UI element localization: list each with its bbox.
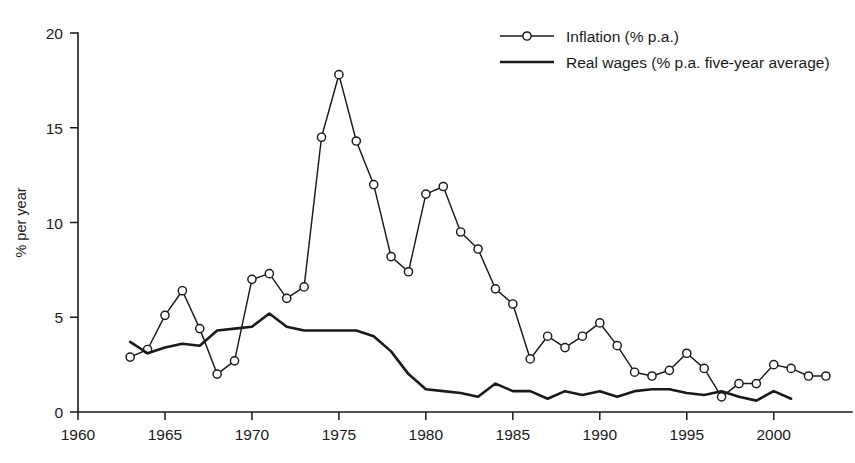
legend-label: Inflation (% p.a.)	[566, 28, 679, 45]
x-tick-label-1965: 1965	[148, 426, 182, 443]
data-point-1969	[230, 357, 238, 365]
x-tick-label-1990: 1990	[583, 426, 618, 443]
data-point-1989	[578, 332, 586, 340]
data-point-1977	[370, 181, 378, 189]
data-point-1999	[752, 379, 760, 387]
x-tick-label-1960: 1960	[61, 426, 96, 443]
data-point-1975	[335, 71, 343, 79]
line-chart-canvas: 196019651970197519801985199019952000 051…	[0, 0, 855, 463]
y-axis-title-text: % per year	[13, 187, 29, 257]
data-point-1976	[352, 137, 360, 145]
x-tick-label-2000: 2000	[756, 426, 791, 443]
data-point-1990	[596, 319, 604, 327]
data-point-1968	[213, 370, 221, 378]
x-tick-label-1975: 1975	[322, 426, 356, 443]
data-point-1974	[317, 133, 325, 141]
data-point-1985	[509, 300, 517, 308]
data-point-1992	[630, 368, 638, 376]
legend-label: Real wages (% p.a. five-year average)	[566, 54, 830, 71]
data-point-1978	[387, 253, 395, 261]
data-point-1983	[474, 245, 482, 253]
x-tick-label-1970: 1970	[235, 426, 270, 443]
data-point-1984	[491, 285, 499, 293]
axis-lines	[78, 33, 852, 412]
tick-marks	[70, 33, 774, 420]
data-point-1995	[683, 349, 691, 357]
y-axis-title: % per year	[13, 187, 29, 257]
data-point-2000	[770, 361, 778, 369]
data-series	[126, 71, 830, 401]
data-point-1996	[700, 364, 708, 372]
data-point-1998	[735, 379, 743, 387]
y-tick-label-20: 20	[46, 25, 64, 42]
data-point-1988	[561, 343, 569, 351]
legend-item-inflation: Inflation (% p.a.)	[500, 28, 679, 45]
data-point-1980	[422, 190, 430, 198]
data-point-2003	[822, 372, 830, 380]
series-inflation	[126, 71, 830, 401]
data-point-1963	[126, 353, 134, 361]
series-path	[130, 75, 826, 397]
chart-figure: 196019651970197519801985199019952000 051…	[0, 0, 855, 463]
x-tick-label-1995: 1995	[670, 426, 704, 443]
data-point-1987	[544, 332, 552, 340]
chart-legend: Inflation (% p.a.)Real wages (% p.a. fiv…	[500, 28, 830, 71]
y-tick-label-0: 0	[54, 404, 63, 421]
data-point-1970	[248, 275, 256, 283]
data-point-1965	[161, 311, 169, 319]
data-point-1972	[283, 294, 291, 302]
data-point-1993	[648, 372, 656, 380]
data-point-1981	[439, 182, 447, 190]
data-point-1966	[178, 287, 186, 295]
data-point-1982	[457, 228, 465, 236]
data-point-1997	[717, 393, 725, 401]
data-point-1971	[265, 270, 273, 278]
data-point-1994	[665, 366, 673, 374]
legend-item-real-wages: Real wages (% p.a. five-year average)	[500, 54, 830, 71]
legend-marker-sample	[523, 32, 531, 40]
data-point-2001	[787, 364, 795, 372]
y-tick-label-10: 10	[46, 215, 64, 232]
axes	[78, 33, 852, 412]
data-point-1973	[300, 283, 308, 291]
data-point-1967	[196, 325, 204, 333]
data-point-1991	[613, 342, 621, 350]
x-tick-label-1985: 1985	[496, 426, 530, 443]
x-axis-tick-labels: 196019651970197519801985199019952000	[61, 426, 792, 443]
data-point-1986	[526, 355, 534, 363]
y-tick-label-5: 5	[54, 309, 63, 326]
data-point-2002	[804, 372, 812, 380]
y-tick-label-15: 15	[46, 120, 63, 137]
y-axis-tick-labels: 05101520	[46, 25, 64, 421]
x-tick-label-1980: 1980	[409, 426, 444, 443]
data-point-1979	[404, 268, 412, 276]
